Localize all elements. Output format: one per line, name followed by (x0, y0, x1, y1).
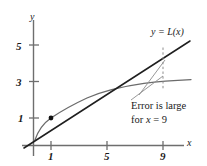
error-annotation-line2: for x = 9 (131, 115, 167, 126)
x-axis-label: x (187, 138, 191, 148)
tangent-line (24, 41, 190, 148)
y-axis-label: y (30, 12, 34, 22)
tangent-point-marker (49, 116, 54, 121)
tangent-line-label: y = L(x) (151, 27, 184, 37)
error-annotation-suffix: = 9 (151, 114, 167, 125)
linear-approximation-figure: y x 5 3 1 1 5 9 y = L(x) Error is large … (0, 0, 207, 166)
y-tick-label-3: 3 (16, 77, 22, 88)
x-tick-label-1: 1 (48, 151, 54, 162)
error-annotation-line1: Error is large (131, 101, 186, 112)
y-tick-label-1: 1 (18, 113, 24, 124)
error-annotation-prefix: for (131, 114, 146, 125)
x-tick-label-5: 5 (104, 151, 110, 162)
y-tick-label-5: 5 (16, 41, 22, 52)
figure-canvas (0, 0, 207, 166)
x-tick-label-9: 9 (160, 151, 166, 162)
annotation-leader-line (131, 76, 163, 100)
